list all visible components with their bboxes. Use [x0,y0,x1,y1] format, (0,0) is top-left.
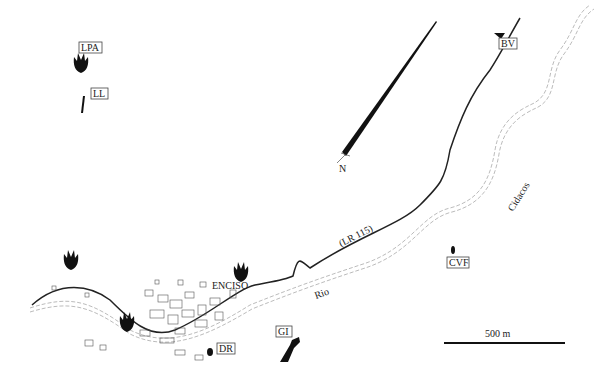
small-track-icon [451,246,455,254]
svg-text:BV: BV [501,38,516,49]
svg-text:GI: GI [278,326,289,337]
site-label-lpa: LPA [79,42,102,53]
north-label: N [339,163,346,174]
svg-text:CVF: CVF [449,257,469,268]
town-enciso-blocks [52,280,236,360]
scale-bar: 500 m [444,328,565,343]
svg-text:DR: DR [219,343,233,354]
road-label: (LR 115) [337,222,375,249]
svg-text:LL: LL [93,88,105,99]
svg-text:LPA: LPA [81,42,100,53]
site-label-dr: DR [217,343,235,354]
site-label-cvf: CVF [447,257,469,268]
river-label-cidacos: Cidacos [505,180,531,213]
site-map: N LPA LL BV CVF GI DR ENCISO (LR 115) Ri… [0,0,613,374]
tridactyl-footprint-icon [64,250,78,270]
tridactyl-footprint-icon [120,312,134,332]
town-label: ENCISO [212,280,248,291]
site-label-ll: LL [91,88,108,99]
site-label-bv: BV [499,38,517,49]
elongated-track-icon [81,96,85,113]
river-cidacos [30,5,594,342]
north-arrow: N [337,21,437,174]
tridactyl-footprint-icon [74,53,88,73]
road-lr115 [32,18,520,333]
site-label-gi: GI [276,326,292,337]
tridactyl-footprint-icon [234,262,248,282]
small-track-icon [207,348,213,356]
outcrop-icon [280,337,300,362]
river-label-rio: Rio [313,286,330,301]
scale-label: 500 m [485,328,511,339]
